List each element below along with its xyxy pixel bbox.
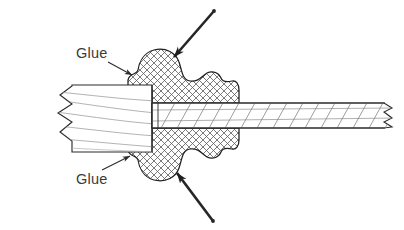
solid-rod xyxy=(152,101,400,130)
glue-bottom-label: Glue xyxy=(76,171,107,187)
diagram-canvas: Glue Glue xyxy=(0,0,404,230)
glue-top-label: Glue xyxy=(76,45,107,61)
glue-joint-diagram: Glue Glue xyxy=(0,0,404,230)
